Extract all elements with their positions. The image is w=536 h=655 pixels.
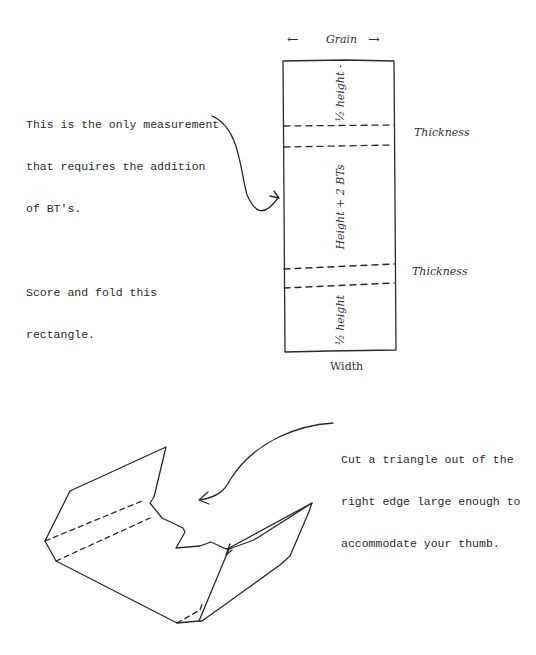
diagram-canvas: ← Grain → This is the only measurement t… — [0, 0, 536, 655]
note-line: This is the only measurement — [26, 118, 219, 132]
note-line: that requires the addition — [26, 160, 219, 174]
note-line: rectangle. — [26, 328, 219, 342]
thumb-cut-arrow — [200, 423, 333, 500]
thickness-label-top: Thickness — [414, 126, 470, 139]
folded-box-sketch — [45, 423, 333, 623]
note-line: Cut a triangle out of the — [341, 453, 520, 467]
measurement-note: This is the only measurement that requir… — [26, 90, 219, 370]
score-line-2 — [284, 145, 392, 147]
note-line: Score and fold this — [26, 286, 219, 300]
note-line: of BT's. — [26, 202, 219, 216]
width-label: Width — [330, 360, 363, 373]
section-label-top-half-height: ½ height - — [334, 53, 348, 133]
grain-arrow-left-icon: ← — [287, 31, 299, 47]
note-line: right edge large enough to — [341, 495, 520, 509]
grain-arrow-right-icon: → — [368, 31, 380, 47]
section-label-height-plus-bts: Height + 2 BTs — [334, 157, 348, 257]
pointer-arrow — [212, 116, 278, 211]
note-line — [26, 244, 219, 258]
section-label-bottom-half-height: ½ height — [334, 285, 348, 355]
score-line-3 — [284, 264, 394, 269]
thumb-cut-note: Cut a triangle out of the right edge lar… — [341, 425, 520, 579]
thickness-label-bottom: Thickness — [412, 265, 468, 278]
grain-label: Grain — [326, 33, 357, 46]
note-line: accommodate your thumb. — [341, 537, 520, 551]
